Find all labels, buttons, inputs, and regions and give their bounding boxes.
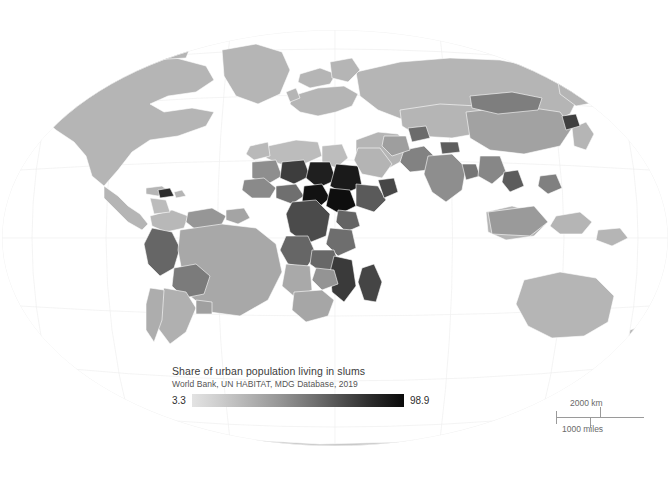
scale-bar-km-label: 2000 km <box>570 398 603 408</box>
legend-colorbar[interactable]: 3.3 98.9 <box>172 394 434 407</box>
region-nepal <box>440 142 460 154</box>
legend-min-value: 3.3 <box>172 395 186 407</box>
scale-bar: 2000 km 1000 miles <box>552 398 648 442</box>
map-figure: Share of urban population living in slum… <box>0 0 671 478</box>
scale-bar-miles-label: 1000 miles <box>562 424 603 434</box>
legend-gradient-bar <box>192 394 404 407</box>
legend-title: Share of urban population living in slum… <box>172 365 434 378</box>
scale-bar-tick-origin <box>556 411 557 424</box>
scale-bar-tick-km <box>600 407 601 418</box>
legend-max-value: 98.9 <box>410 395 429 407</box>
legend: Share of urban population living in slum… <box>172 365 434 390</box>
region-uruguay-paraguay <box>196 300 212 314</box>
legend-source: World Bank, UN HABITAT, MDG Database, 20… <box>172 378 434 390</box>
